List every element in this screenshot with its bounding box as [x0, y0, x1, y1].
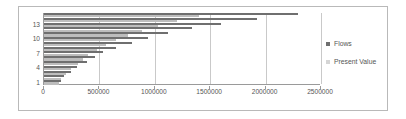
- x-axis-labels: 05000001000000150000020000002500000: [0, 86, 340, 100]
- bar-group: [44, 42, 321, 47]
- x-axis-tick-label: 500000: [87, 88, 109, 95]
- bar-present-value[interactable]: [44, 25, 158, 27]
- legend-swatch-present-value-icon: [326, 60, 330, 64]
- bar-present-value[interactable]: [44, 49, 97, 51]
- bar-group: [44, 66, 321, 71]
- bar-present-value[interactable]: [44, 39, 116, 41]
- bar-present-value[interactable]: [44, 30, 142, 32]
- legend-label-flows: Flows: [334, 40, 352, 47]
- bar-group: [44, 80, 321, 85]
- bar-present-value[interactable]: [44, 73, 66, 75]
- y-axis-tick-label: 4: [36, 65, 40, 72]
- bar-group: [44, 13, 321, 18]
- bar-present-value[interactable]: [44, 78, 61, 80]
- chart-legend: Flows Present Value: [326, 40, 396, 76]
- bar-group: [44, 51, 321, 56]
- bar-present-value[interactable]: [44, 20, 177, 22]
- bar-group: [44, 56, 321, 61]
- legend-item-flows[interactable]: Flows: [326, 40, 396, 47]
- legend-swatch-flows-icon: [326, 42, 330, 46]
- bar-group: [44, 47, 321, 52]
- bar-present-value[interactable]: [44, 68, 71, 70]
- legend-label-present-value: Present Value: [334, 58, 376, 65]
- x-axis-tick-label: 2000000: [252, 88, 278, 95]
- bar-group: [44, 75, 321, 80]
- bar-present-value[interactable]: [44, 58, 83, 60]
- x-axis-tick-label: 1500000: [196, 88, 222, 95]
- x-axis-tick-label: 2500000: [307, 88, 333, 95]
- y-axis-tick-label: 10: [33, 36, 40, 43]
- y-axis-tick-label: 13: [33, 22, 40, 29]
- legend-item-present-value[interactable]: Present Value: [326, 58, 396, 65]
- plot-area: [43, 13, 320, 85]
- bar-present-value[interactable]: [44, 63, 78, 65]
- y-axis-labels: 1471013: [20, 13, 40, 85]
- bar-group: [44, 71, 321, 76]
- y-axis-tick-label: 7: [36, 51, 40, 58]
- bar-present-value[interactable]: [44, 15, 199, 17]
- bar-group: [44, 18, 321, 23]
- gridline: [321, 13, 322, 84]
- bar-present-value[interactable]: [44, 82, 59, 84]
- y-axis-tick-label: 1: [36, 79, 40, 86]
- bar-present-value[interactable]: [44, 34, 128, 36]
- x-axis-tick-label: 0: [41, 88, 45, 95]
- bar-group: [44, 27, 321, 32]
- bar-group: [44, 23, 321, 28]
- bar-group: [44, 32, 321, 37]
- x-axis-tick-label: 1000000: [141, 88, 167, 95]
- bar-present-value[interactable]: [44, 44, 106, 46]
- bar-group: [44, 37, 321, 42]
- chart-container: 1471013 05000001000000150000020000002500…: [0, 0, 406, 119]
- bar-present-value[interactable]: [44, 54, 88, 56]
- bar-group: [44, 61, 321, 66]
